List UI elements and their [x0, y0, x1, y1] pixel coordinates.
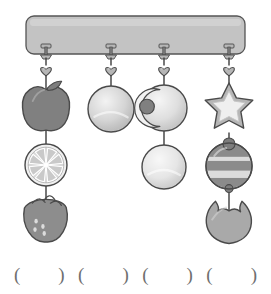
- strand-1: [22, 44, 69, 242]
- answer-blank[interactable]: ( ): [78, 265, 129, 284]
- hanging-bar: [26, 16, 245, 54]
- charm-crescent-bead: [140, 99, 155, 114]
- charm-ball-sheen: [89, 87, 133, 131]
- hook-screw-shaft: [163, 47, 165, 55]
- charm-strawberry-seed: [43, 231, 46, 236]
- worksheet-canvas: [0, 0, 271, 294]
- answer-blank[interactable]: ( ): [206, 265, 257, 284]
- strand-2: [88, 44, 134, 132]
- hook-screw-shaft: [228, 47, 230, 55]
- charm-ball: [88, 86, 134, 132]
- charm-ball: [142, 145, 186, 189]
- charm-strawberry-seed: [34, 219, 37, 224]
- charm-apple-body: [22, 87, 69, 131]
- charm-strawberry: [24, 196, 67, 242]
- charm-striped-top: [206, 138, 252, 193]
- hanging-bar-highlight: [30, 19, 241, 26]
- heart-charm: [41, 68, 52, 76]
- charm-strawberry-body: [24, 199, 67, 242]
- hook-screw-shaft: [110, 47, 112, 55]
- answer-blank-row: ( ) ( ) ( ) ( ): [0, 265, 271, 284]
- charm-strawberry-seed: [41, 224, 44, 229]
- strand-3: [135, 44, 187, 189]
- charm-crescent-ball: [135, 85, 187, 131]
- charm-star: [205, 83, 253, 128]
- heart-charm: [159, 68, 170, 76]
- charm-citrus-core: [44, 163, 48, 167]
- charm-ball-sheen: [143, 146, 185, 188]
- answer-blank[interactable]: ( ): [142, 265, 193, 284]
- strand-4: [205, 44, 253, 244]
- charm-striped-band: [206, 161, 252, 171]
- charm-citrus-slice: [25, 144, 67, 186]
- answer-blank[interactable]: ( ): [14, 265, 65, 284]
- heart-charm: [224, 68, 235, 76]
- hook-screw-shaft: [45, 47, 47, 55]
- heart-charm: [106, 68, 117, 76]
- mobile-illustration: [0, 0, 271, 294]
- charm-strawberry-seed: [33, 227, 36, 232]
